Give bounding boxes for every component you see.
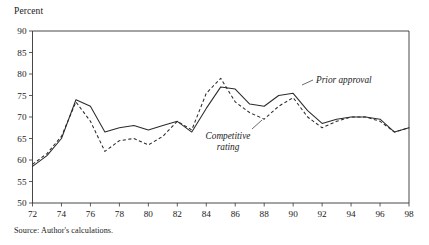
x-tick-label: 82 bbox=[173, 209, 183, 219]
x-tick-label: 90 bbox=[289, 209, 299, 219]
prior-approval-leader-line bbox=[302, 80, 313, 85]
y-axis-title: Percent bbox=[14, 6, 43, 16]
competitive-rating-leader-line bbox=[252, 120, 262, 129]
y-tick-label: 55 bbox=[17, 177, 27, 187]
y-tick-label: 70 bbox=[17, 112, 27, 122]
x-tick-label: 72 bbox=[28, 209, 38, 219]
x-tick-label: 96 bbox=[375, 209, 385, 219]
y-tick-label: 80 bbox=[17, 69, 27, 79]
y-tick-label: 60 bbox=[17, 155, 27, 165]
annotation-competitive-rating-line2: rating bbox=[217, 142, 240, 152]
x-tick-label: 76 bbox=[86, 209, 96, 219]
y-tick-label: 85 bbox=[17, 48, 27, 58]
chart-plot-area: 505560657075808590 727476788082848688909… bbox=[0, 0, 429, 245]
x-axis-ticks: 7274767880828486889092949698 bbox=[28, 203, 414, 219]
source-note: Source: Author's calculations. bbox=[14, 226, 113, 235]
y-axis-ticks: 505560657075808590 bbox=[17, 26, 32, 208]
y-tick-label: 50 bbox=[17, 198, 27, 208]
x-tick-label: 98 bbox=[404, 209, 414, 219]
x-tick-label: 94 bbox=[346, 209, 356, 219]
annotation-prior-approval: Prior approval bbox=[315, 75, 372, 85]
chart-figure: Percent 505560657075808590 7274767880828… bbox=[0, 0, 429, 245]
annotation-competitive-rating-line1: Competitive bbox=[206, 131, 251, 141]
y-tick-label: 65 bbox=[17, 134, 27, 144]
x-tick-label: 86 bbox=[231, 209, 241, 219]
x-tick-label: 78 bbox=[115, 209, 125, 219]
series-line-prior-approval bbox=[33, 87, 410, 167]
x-tick-label: 84 bbox=[202, 209, 212, 219]
y-tick-label: 90 bbox=[17, 26, 27, 36]
x-tick-label: 92 bbox=[318, 209, 328, 219]
x-tick-label: 74 bbox=[57, 209, 67, 219]
x-tick-label: 88 bbox=[260, 209, 270, 219]
x-tick-label: 80 bbox=[144, 209, 154, 219]
y-tick-label: 75 bbox=[17, 91, 27, 101]
